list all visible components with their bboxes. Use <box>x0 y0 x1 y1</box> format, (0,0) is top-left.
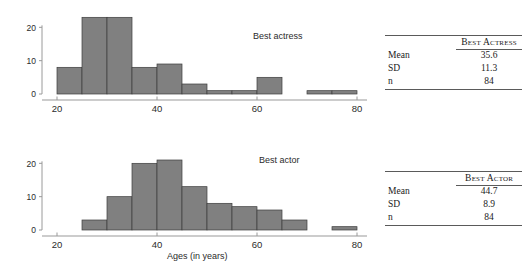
table-header-row: Best Actress <box>385 36 522 50</box>
x-axis-title: Ages (in years) <box>167 251 228 261</box>
histogram-bar <box>182 187 207 230</box>
row-value-n: 84 <box>456 212 522 225</box>
y-axis-tick-label: 20 <box>27 159 37 169</box>
stats-table-head: Best Actress <box>385 36 522 50</box>
x-axis-tick-label: 60 <box>252 103 263 114</box>
table-row: n 84 <box>385 76 522 89</box>
y-axis-tick-label: 20 <box>27 23 37 33</box>
x-axis-tick-label: 80 <box>352 239 363 250</box>
x-axis-tick-label: 20 <box>52 103 63 114</box>
row-value-mean: 44.7 <box>456 185 522 198</box>
histogram-bar <box>232 207 257 230</box>
table-row: n 84 <box>385 212 522 225</box>
x-axis-tick-label: 60 <box>252 239 263 250</box>
table-row: Mean 35.6 <box>385 49 522 62</box>
histogram-bar <box>157 64 182 94</box>
histogram-bar <box>307 91 332 94</box>
stats-table-body: Mean 44.7 SD 8.9 n 84 <box>385 185 522 225</box>
header-blank <box>385 172 456 186</box>
best-actress-histogram: 0102020406080 <box>8 8 370 118</box>
best-actor-stats: Best Actor Mean 44.7 SD 8.9 n 84 <box>385 171 522 226</box>
histogram-bar <box>132 67 157 94</box>
histogram-bar <box>207 91 232 94</box>
best-actress-plot-area: 0102020406080 <box>8 8 370 118</box>
row-value-sd: 11.3 <box>456 63 522 76</box>
table-header-row: Best Actor <box>385 172 522 186</box>
x-axis-tick-label: 40 <box>152 103 163 114</box>
table-row: Mean 44.7 <box>385 185 522 198</box>
best-actress-stats: Best Actress Mean 35.6 SD 11.3 n 84 <box>385 35 522 90</box>
histogram-bar <box>257 77 282 94</box>
histogram-bar <box>107 197 132 230</box>
row-value-mean: 35.6 <box>456 49 522 62</box>
best-actor-series-label: Best actor <box>259 155 300 165</box>
figure-root: 0102020406080 Best actress 0102020406080… <box>0 0 529 271</box>
y-axis-tick-label: 0 <box>31 225 36 235</box>
x-axis-tick-label: 80 <box>352 103 363 114</box>
stats-table-head: Best Actor <box>385 172 522 186</box>
row-label-n: n <box>385 76 456 89</box>
table-row: SD 11.3 <box>385 63 522 76</box>
header-blank <box>385 36 456 50</box>
histogram-bar <box>82 17 107 94</box>
histogram-bar <box>132 163 157 230</box>
histogram-bar <box>332 227 357 230</box>
x-axis-tick-label: 20 <box>52 239 63 250</box>
histogram-bar <box>157 160 182 230</box>
histogram-bar <box>182 84 207 94</box>
header-best-actress: Best Actress <box>456 36 522 50</box>
row-label-mean: Mean <box>385 49 456 62</box>
row-label-sd: SD <box>385 199 456 212</box>
row-label-sd: SD <box>385 63 456 76</box>
x-axis-tick-label: 40 <box>152 239 163 250</box>
row-value-sd: 8.9 <box>456 199 522 212</box>
best-actor-histogram: 0102020406080 <box>8 144 370 254</box>
histogram-bar <box>57 67 82 94</box>
histogram-bar <box>282 220 307 230</box>
row-label-mean: Mean <box>385 185 456 198</box>
y-axis-tick-label: 0 <box>31 89 36 99</box>
y-axis-tick-label: 10 <box>27 192 37 202</box>
histogram-bar <box>82 220 107 230</box>
row-label-n: n <box>385 212 456 225</box>
y-axis-tick-label: 10 <box>27 56 37 66</box>
histogram-bar <box>232 91 257 94</box>
histogram-bar <box>207 203 232 230</box>
histogram-bar <box>257 210 282 230</box>
table-row: SD 8.9 <box>385 199 522 212</box>
histogram-bar <box>107 17 132 94</box>
best-actor-plot-area: 0102020406080 <box>8 144 370 254</box>
stats-table-body: Mean 35.6 SD 11.3 n 84 <box>385 49 522 89</box>
best-actress-series-label: Best actress <box>253 31 303 41</box>
histogram-bar <box>332 91 357 94</box>
header-best-actor: Best Actor <box>456 172 522 186</box>
row-value-n: 84 <box>456 76 522 89</box>
